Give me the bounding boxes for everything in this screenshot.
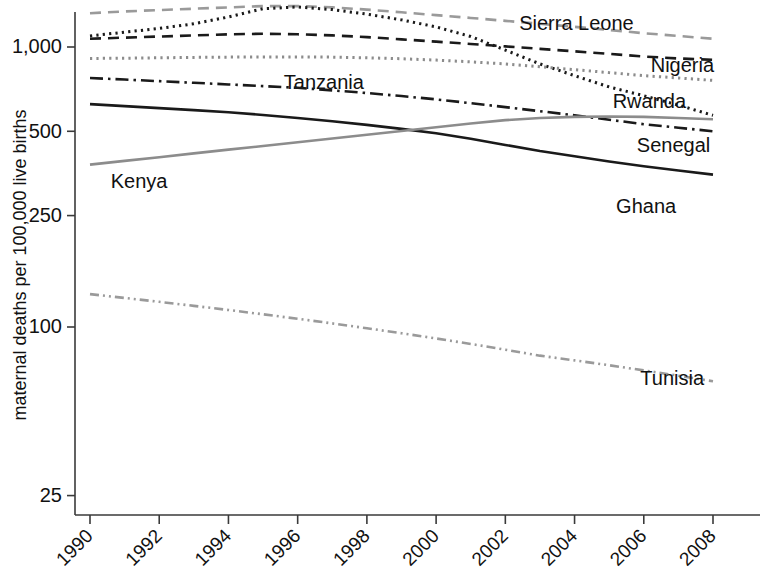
x-tick-label: 1990	[52, 525, 97, 570]
y-tick-label: 500	[29, 120, 62, 142]
maternal-mortality-line-chart: 251002505001,000199019921994199619982000…	[0, 0, 766, 575]
x-tick-label: 2000	[398, 525, 443, 570]
y-axis-title: maternal deaths per 100,000 live births	[10, 109, 30, 420]
chart-canvas: 251002505001,000199019921994199619982000…	[0, 0, 766, 575]
x-tick-label: 2006	[606, 525, 651, 570]
series-line-tunisia	[90, 294, 713, 381]
series-label-rwanda: Rwanda	[613, 90, 687, 112]
series-label-nigeria: Nigeria	[651, 54, 715, 76]
x-tick-label: 1994	[191, 525, 236, 570]
x-tick-label: 2004	[537, 525, 582, 570]
y-tick-label: 250	[29, 204, 62, 226]
series-label-sierra-leone: Sierra Leone	[519, 12, 634, 34]
x-tick-label: 1996	[260, 525, 305, 570]
series-line-kenya	[90, 116, 713, 164]
series-label-ghana: Ghana	[616, 195, 677, 217]
series-line-ghana	[90, 104, 713, 175]
series-label-senegal: Senegal	[637, 134, 710, 156]
series-label-kenya: Kenya	[111, 170, 169, 192]
series-label-tunisia: Tunisia	[640, 367, 705, 389]
x-tick-label: 1992	[121, 525, 166, 570]
series-line-tanzania	[90, 57, 713, 80]
y-tick-label: 100	[29, 315, 62, 337]
series-line-nigeria	[90, 34, 713, 60]
x-tick-label: 2008	[675, 525, 720, 570]
x-tick-label: 2002	[467, 525, 512, 570]
x-tick-label: 1998	[329, 525, 374, 570]
y-tick-label: 25	[40, 484, 62, 506]
y-tick-label: 1,000	[12, 35, 62, 57]
